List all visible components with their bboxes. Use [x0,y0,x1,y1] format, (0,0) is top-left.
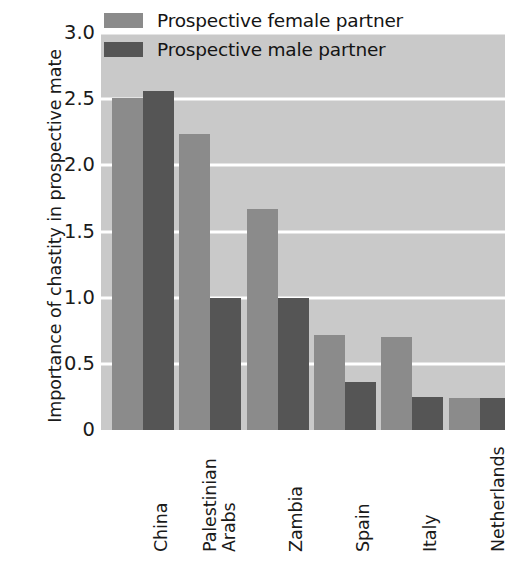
x-axis-tick-line: Palestinian [201,458,220,552]
legend-item-female: Prospective female partner [104,6,394,35]
x-axis-tick-line: Spain [354,504,373,552]
bar-zambia-female [247,209,278,430]
legend-label: Prospective male partner [157,39,386,60]
y-axis-tick-1-5: 1.5 [40,222,95,242]
bar-palestinian-arabs-male [210,298,241,430]
y-axis-tick-2-0: 2.0 [40,156,95,176]
bar-group-container [101,33,505,430]
y-axis-tick-3-0: 3.0 [40,23,95,43]
legend: Prospective female partnerProspective ma… [104,6,394,64]
x-axis-tick-line: China [152,503,171,553]
y-axis-tick-labels: 00.51.01.52.02.53.0 [40,0,95,563]
bar-palestinian-arabs-female [179,134,210,430]
bar-italy-female [381,337,412,430]
plot-area [101,33,505,430]
y-axis-tick-1-0: 1.0 [40,288,95,308]
x-axis-tick-line: Netherlands [489,446,508,552]
bar-netherlands-female [449,398,480,430]
y-axis-tick-2-5: 2.5 [40,89,95,109]
bar-spain-female [314,335,345,430]
bar-chart-figure: Importance of chastity in prospective ma… [0,0,529,563]
legend-swatch-male-icon [104,42,143,57]
bar-spain-male [345,382,376,430]
x-axis-tick-line: Arabs [220,502,239,552]
x-axis-tick-line: Italy [421,515,440,552]
bar-zambia-male [278,298,309,430]
y-axis-tick-0: 0 [40,420,95,440]
legend-item-male: Prospective male partner [104,35,394,64]
x-axis-tick-labels: ChinaPalestinianArabsZambiaSpainItalyNet… [101,430,505,563]
legend-label: Prospective female partner [157,10,403,31]
bar-china-female [112,98,143,430]
legend-swatch-female-icon [104,13,143,28]
bar-italy-male [412,397,443,430]
x-axis-tick-line: Zambia [287,486,306,552]
bar-china-male [143,91,174,430]
y-axis-tick-0-5: 0.5 [40,354,95,374]
bar-netherlands-male [480,398,505,430]
